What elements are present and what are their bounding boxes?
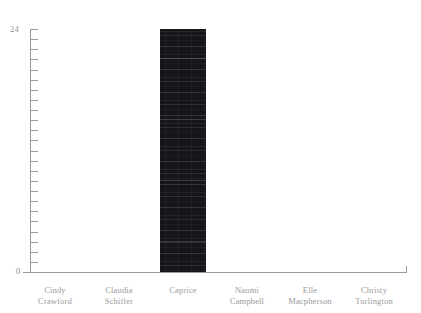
y-axis-tick [31, 29, 38, 30]
y-axis-tick [31, 191, 38, 192]
y-axis-tick [31, 120, 38, 121]
y-axis-tick [31, 70, 38, 71]
y-axis-tick [31, 49, 38, 50]
y-axis-tick [31, 201, 38, 202]
x-axis-category-label: Caprice [151, 285, 215, 296]
y-axis-tick [31, 39, 38, 40]
bar-chart: 24 0 Cindy CrawfordClaudia SchifferCapri… [0, 0, 421, 313]
y-axis-tick [31, 161, 38, 162]
x-axis-end-tick [406, 266, 407, 273]
y-axis-tick [31, 171, 38, 172]
y-axis-tick [31, 272, 38, 273]
bar [160, 29, 206, 272]
y-axis-min-label: 0 [16, 266, 20, 276]
y-axis-tick [31, 80, 38, 81]
x-axis-category-label: Cindy Crawford [23, 285, 87, 306]
x-axis-category-label: Elle Macpherson [278, 285, 342, 306]
y-axis-tick [31, 151, 38, 152]
y-axis-tick [31, 100, 38, 101]
y-axis-tick [31, 211, 38, 212]
y-axis-tick [31, 110, 38, 111]
plot-area: 24 0 Cindy CrawfordClaudia SchifferCapri… [0, 0, 421, 313]
y-axis-tick [31, 140, 38, 141]
y-axis-tick [31, 181, 38, 182]
x-axis-category-label: Christy Turlington [342, 285, 406, 306]
y-axis-tick [31, 232, 38, 233]
y-axis-tick [31, 242, 38, 243]
y-axis-tick [31, 252, 38, 253]
x-axis-category-label: Claudia Schiffer [87, 285, 151, 306]
y-axis-tick [31, 130, 38, 131]
y-axis-tick [31, 90, 38, 91]
y-axis-max-label: 24 [10, 24, 19, 34]
y-axis-tick [31, 262, 38, 263]
x-axis-category-label: Naomi Campbell [215, 285, 279, 306]
y-axis-tick [31, 59, 38, 60]
y-axis-tick [31, 221, 38, 222]
x-axis-line [23, 272, 407, 273]
